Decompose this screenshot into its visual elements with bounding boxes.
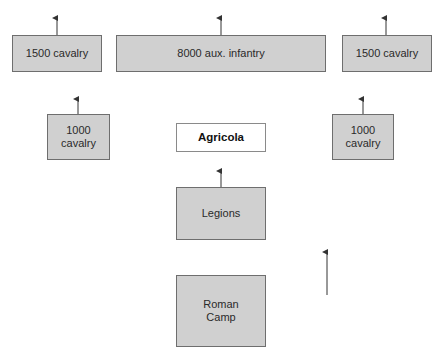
arrows-layer	[0, 0, 444, 363]
